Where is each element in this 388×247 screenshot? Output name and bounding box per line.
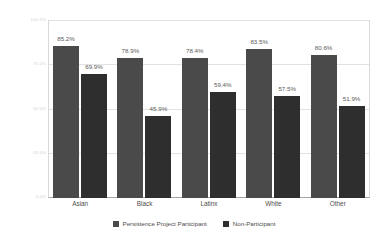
- bar-group: 78.9%45.9%: [112, 20, 176, 198]
- bar[interactable]: 45.9%: [145, 116, 171, 198]
- bar-group: 78.4%59.4%: [177, 20, 241, 198]
- bar-value-label: 59.4%: [214, 82, 232, 88]
- bar-value-label: 85.2%: [57, 36, 75, 42]
- bar-value-label: 78.9%: [122, 48, 140, 54]
- x-axis-tick-label-other: Other: [306, 201, 370, 207]
- bar-value-label: 80.6%: [315, 45, 333, 51]
- y-axis-tick-label-25: 25.0%: [6, 151, 46, 155]
- bar[interactable]: 57.5%: [274, 96, 300, 198]
- bars-layer: 85.2%69.9%78.9%45.9%78.4%59.4%83.5%57.5%…: [48, 20, 370, 198]
- y-axis-tick-label-75: 75.0%: [6, 62, 46, 66]
- bar-value-label: 83.5%: [250, 39, 268, 45]
- x-axis-tick-label-asian: Asian: [48, 201, 112, 207]
- legend-entry-nonparticipant[interactable]: Non-Participant: [223, 221, 276, 227]
- legend-swatch-participant: [113, 221, 119, 227]
- bar[interactable]: 83.5%: [246, 49, 272, 198]
- bar-value-label: 45.9%: [150, 106, 168, 112]
- legend-label-participant: Persistence Project Participant: [123, 221, 207, 227]
- bar-value-label: 51.9%: [343, 96, 361, 102]
- x-axis-tick-label-black: Black: [112, 201, 176, 207]
- y-axis-tick-label-0: 0.0%: [6, 195, 46, 199]
- y-axis-tick-label-50: 50.0%: [6, 107, 46, 111]
- x-axis-tick-label-white: White: [241, 201, 305, 207]
- chart-legend: Persistence Project Participant Non-Part…: [0, 221, 388, 227]
- bar-value-label: 78.4%: [186, 48, 204, 54]
- x-axis: AsianBlackLatinxWhiteOther: [48, 201, 370, 215]
- bar-value-label: 57.5%: [278, 86, 296, 92]
- bar[interactable]: 78.9%: [117, 58, 143, 198]
- legend-label-nonparticipant: Non-Participant: [233, 221, 276, 227]
- bar-value-label: 69.9%: [85, 64, 103, 70]
- bar[interactable]: 80.6%: [311, 55, 337, 198]
- bar-group: 80.6%51.9%: [306, 20, 370, 198]
- bar[interactable]: 59.4%: [210, 92, 236, 198]
- bar-group: 83.5%57.5%: [241, 20, 305, 198]
- bar[interactable]: 78.4%: [182, 58, 208, 198]
- legend-entry-participant[interactable]: Persistence Project Participant: [113, 221, 207, 227]
- bar[interactable]: 85.2%: [53, 46, 79, 198]
- grouped-bar-chart: 100.0% 75.0% 50.0% 25.0% 0.0% 85.2%69.9%…: [0, 0, 388, 247]
- bar[interactable]: 69.9%: [81, 74, 107, 198]
- legend-swatch-nonparticipant: [223, 221, 229, 227]
- y-axis-tick-label-100: 100.0%: [6, 18, 46, 22]
- bar[interactable]: 51.9%: [339, 106, 365, 198]
- bar-group: 85.2%69.9%: [48, 20, 112, 198]
- x-axis-tick-label-latinx: Latinx: [177, 201, 241, 207]
